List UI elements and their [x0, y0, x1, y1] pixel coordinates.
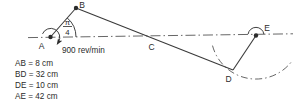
connecting-rod-bd-line — [76, 8, 233, 70]
point-label-b: B — [79, 0, 85, 10]
angle-fraction-numerator: π — [65, 18, 71, 27]
pivot-arc-e — [248, 27, 264, 34]
angle-fraction-denominator: 4 — [65, 28, 70, 37]
speed-label: 900 rev/min — [62, 46, 105, 55]
locus-arc-of-d — [213, 46, 292, 79]
dimension-de: DE = 10 cm — [15, 81, 58, 90]
crank-ab-line — [51, 8, 77, 37]
mechanism-diagram: A B C D E π 4 900 rev/min AB = 8 cm BD =… — [0, 0, 295, 111]
point-label-e: E — [264, 23, 270, 33]
joint-e-dot — [254, 33, 258, 37]
diagram-canvas: A B C D E π 4 900 rev/min AB = 8 cm BD =… — [0, 0, 295, 111]
dimension-bd: BD = 32 cm — [15, 70, 58, 79]
point-label-c: C — [148, 42, 154, 52]
dimension-ab: AB = 8 cm — [15, 59, 53, 68]
lever-de-line — [233, 36, 256, 71]
joint-b-dot — [74, 6, 78, 10]
point-label-a: A — [39, 41, 45, 51]
joint-a-dot — [48, 35, 52, 39]
point-label-d: D — [225, 74, 231, 84]
dimension-ae: AE = 42 cm — [15, 92, 58, 101]
